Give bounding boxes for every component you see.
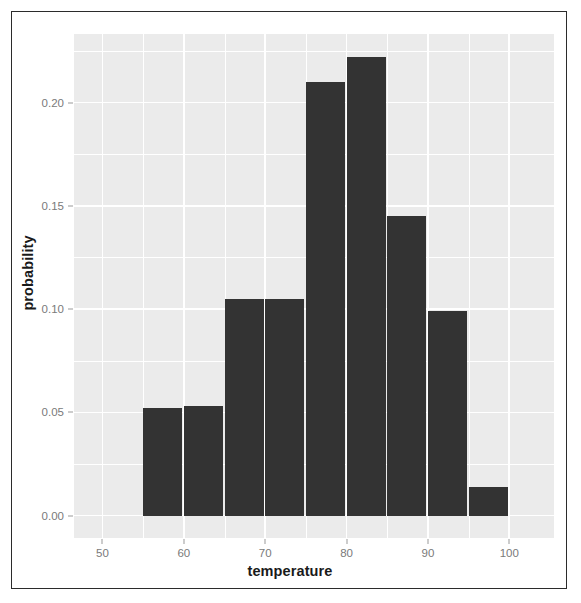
x-axis-tick-label: 80 [340,547,353,559]
x-axis-tick-mark [183,539,184,544]
histogram-bar [265,299,304,516]
histogram-bar [143,408,182,515]
y-axis-tick-label: 0.00 [26,510,64,522]
x-axis-tick-mark [102,539,103,544]
x-axis-tick-label: 70 [259,547,272,559]
y-axis-tick-mark [68,412,73,413]
plot-panel [74,34,554,538]
x-axis-tick-mark [509,539,510,544]
histogram-bar [469,487,508,516]
gridline-minor-vertical [469,34,470,538]
gridline-major-vertical [102,34,104,538]
y-axis-tick-mark [68,515,73,516]
figure-frame: 0.000.050.100.150.20 5060708090100 proba… [11,11,567,589]
x-axis-tick-mark [265,539,266,544]
y-axis-tick-label: 0.05 [26,406,64,418]
x-axis-tick-label: 50 [96,547,109,559]
y-axis-title: probability [20,213,36,333]
x-axis-title: temperature [12,563,568,579]
histogram-bar [184,406,223,515]
histogram-bar [225,299,264,516]
x-axis-tick-label: 90 [421,547,434,559]
histogram-bar [306,82,345,516]
plot-area: 0.000.050.100.150.20 5060708090100 proba… [12,12,568,590]
x-axis-tick-label: 60 [177,547,190,559]
y-axis-tick-mark [68,205,73,206]
y-axis-tick-mark [68,309,73,310]
y-axis-tick-mark [68,102,73,103]
y-axis-tick-label: 0.20 [26,97,64,109]
gridline-minor-horizontal [74,51,554,52]
y-axis-tick-label: 0.15 [26,200,64,212]
histogram-bar [387,216,426,516]
gridline-major-vertical [508,34,510,538]
x-axis-tick-mark [427,539,428,544]
x-axis-tick-label: 100 [500,547,519,559]
histogram-bar [428,311,467,515]
x-axis-tick-mark [346,539,347,544]
histogram-bar [347,57,386,516]
